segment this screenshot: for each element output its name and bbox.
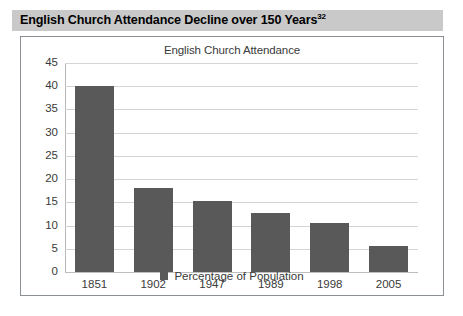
bar-slot: 1989 bbox=[241, 63, 300, 272]
y-axis-tick-label: 35 bbox=[45, 104, 58, 116]
chart-frame: English Church Attendance 05101520253035… bbox=[20, 36, 444, 296]
bar bbox=[134, 188, 173, 272]
y-axis-tick-label: 20 bbox=[45, 173, 58, 185]
plot-area: 051015202530354045 185119021947198919982… bbox=[65, 63, 418, 272]
figure-heading-bar: English Church Attendance Decline over 1… bbox=[12, 10, 443, 31]
legend-label: Percentage of Population bbox=[174, 271, 303, 283]
bar-slot: 1998 bbox=[300, 63, 359, 272]
y-axis-tick-label: 5 bbox=[52, 243, 58, 255]
chart-legend: Percentage of Population bbox=[21, 271, 443, 283]
bar-slot: 2005 bbox=[359, 63, 418, 272]
y-axis-tick-label: 45 bbox=[45, 57, 58, 69]
bar bbox=[193, 201, 232, 272]
figure-heading-footnote: 32 bbox=[317, 12, 326, 21]
y-axis-tick-label: 10 bbox=[45, 220, 58, 232]
bar bbox=[251, 213, 290, 272]
figure-heading-label: English Church Attendance Decline over 1… bbox=[20, 13, 317, 27]
y-axis-tick-label: 30 bbox=[45, 127, 58, 139]
bar bbox=[75, 86, 114, 272]
bar-slot: 1947 bbox=[183, 63, 242, 272]
bar-slot: 1851 bbox=[65, 63, 124, 272]
figure-heading-text: English Church Attendance Decline over 1… bbox=[20, 14, 326, 27]
bar-slot: 1902 bbox=[124, 63, 183, 272]
y-axis-tick-label: 25 bbox=[45, 150, 58, 162]
y-axis-tick-label: 40 bbox=[45, 80, 58, 92]
legend-swatch-icon bbox=[160, 272, 168, 280]
bar bbox=[310, 223, 349, 272]
bar-series: 185119021947198919982005 bbox=[65, 63, 418, 272]
chart-title: English Church Attendance bbox=[21, 44, 443, 56]
bar bbox=[369, 246, 408, 272]
y-axis-tick-label: 15 bbox=[45, 197, 58, 209]
